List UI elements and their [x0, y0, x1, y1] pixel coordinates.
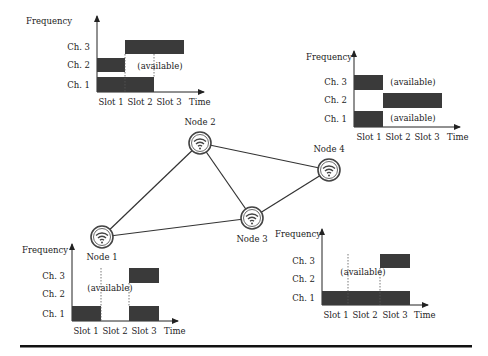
channel-label: Ch. 1	[324, 114, 347, 124]
available-label: (available)	[390, 113, 435, 123]
node-3: Node 3	[236, 207, 267, 244]
chart-top-left: Frequency Ch. 3 Ch. 2 Ch. 1 (available) …	[26, 16, 210, 107]
busy-bar	[354, 111, 383, 127]
busy-bar	[383, 93, 442, 108]
link-node1-node2	[102, 143, 200, 237]
y-axis-label: Frequency	[306, 52, 352, 62]
slot-label: Slot 1	[356, 132, 381, 142]
available-label: (available)	[390, 77, 435, 87]
slot-label: Slot 2	[385, 132, 410, 142]
busy-bar	[129, 306, 159, 321]
busy-bar	[125, 40, 184, 54]
channel-label: Ch. 3	[324, 77, 347, 87]
slot-label: Slot 2	[352, 310, 377, 320]
available-label: (available)	[87, 283, 132, 293]
time-label: Time	[189, 97, 210, 107]
wifi-node-icon	[91, 226, 113, 248]
channel-label: Ch. 3	[292, 256, 315, 266]
channel-label: Ch. 1	[42, 309, 65, 319]
channel-allocation-diagram: Node 1 Node 2 Node 3 Node 4 Frequency Ch…	[0, 0, 488, 356]
busy-bar	[129, 268, 159, 283]
time-label: Time	[447, 132, 468, 142]
bottom-rule	[20, 345, 472, 348]
link-node1-node3	[102, 218, 252, 237]
slot-label: Slot 1	[98, 97, 123, 107]
channel-label: Ch. 2	[67, 60, 90, 70]
node-label: Node 3	[236, 234, 267, 244]
busy-bar	[322, 291, 410, 305]
link-node2-node4	[200, 143, 329, 170]
node-1: Node 1	[86, 226, 117, 262]
node-4: Node 4	[313, 144, 344, 181]
busy-bar	[354, 75, 383, 90]
slot-label: Slot 2	[127, 97, 152, 107]
wifi-node-icon	[189, 132, 211, 154]
wifi-node-icon	[241, 207, 263, 229]
slot-label: Slot 3	[156, 97, 181, 107]
slot-label: Slot 1	[73, 326, 98, 336]
y-axis-label: Frequency	[275, 229, 321, 239]
channel-label: Ch. 3	[42, 271, 65, 281]
channel-label: Ch. 2	[292, 274, 315, 284]
wifi-node-icon	[318, 159, 340, 181]
channel-label: Ch. 2	[324, 95, 347, 105]
busy-bar	[72, 306, 101, 321]
channel-label: Ch. 1	[67, 80, 90, 90]
link-node2-node3	[200, 143, 252, 218]
time-label: Time	[414, 310, 435, 320]
slot-label: Slot 2	[102, 326, 127, 336]
channel-label: Ch. 3	[67, 42, 90, 52]
network-links	[102, 143, 329, 237]
busy-bar	[97, 77, 154, 92]
slot-label: Slot 1	[323, 310, 348, 320]
busy-bar	[380, 254, 410, 268]
slot-label: Slot 3	[382, 310, 407, 320]
node-label: Node 2	[184, 117, 215, 127]
slot-label: Slot 3	[414, 132, 439, 142]
node-2: Node 2	[184, 117, 215, 154]
chart-top-right: Frequency Ch. 3 Ch. 2 Ch. 1 (available) …	[306, 51, 468, 142]
time-label: Time	[164, 326, 185, 336]
node-label: Node 4	[313, 144, 344, 154]
slot-label: Slot 3	[131, 326, 156, 336]
channel-label: Ch. 1	[292, 293, 315, 303]
y-axis-label: Frequency	[26, 16, 72, 26]
available-label: (available)	[340, 267, 385, 277]
chart-bottom-right: Frequency Ch. 3 Ch. 2 Ch. 1 (available) …	[275, 229, 435, 320]
link-node3-node4	[252, 170, 329, 218]
available-label: (available)	[137, 61, 182, 71]
node-label: Node 1	[86, 252, 117, 262]
busy-bar	[97, 58, 125, 72]
y-axis-label: Frequency	[22, 245, 68, 255]
channel-label: Ch. 2	[42, 289, 65, 299]
